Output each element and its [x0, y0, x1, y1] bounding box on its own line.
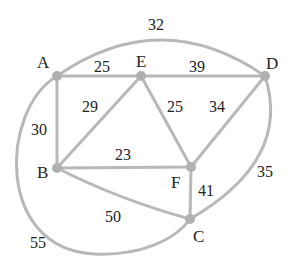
- node-f: [186, 162, 196, 172]
- weight-a-e: 25: [94, 58, 110, 75]
- weight-e-f: 25: [167, 98, 183, 115]
- edge-d-f: [191, 76, 265, 167]
- weight-d-c: 35: [257, 163, 273, 180]
- node-label-b: B: [37, 163, 48, 182]
- weight-e-d: 39: [189, 58, 205, 75]
- weight-b-e: 29: [82, 98, 98, 115]
- node-c: [185, 214, 195, 224]
- weight-a-d: 32: [148, 16, 164, 33]
- weight-b-c: 50: [105, 208, 121, 225]
- weighted-graph: A E D B F C 32 25 39 30 29 25 34 23 41 3…: [0, 0, 295, 264]
- node-b: [52, 163, 62, 173]
- edge-a-d-curved: [57, 40, 265, 76]
- edge-f-c: [190, 167, 191, 219]
- node-label-a: A: [37, 53, 50, 72]
- weight-a-b: 30: [31, 121, 47, 138]
- node-label-e: E: [136, 52, 146, 71]
- edge-b-f: [57, 167, 191, 168]
- weight-a-c: 55: [30, 234, 46, 251]
- weight-d-f: 34: [209, 98, 225, 115]
- node-e: [136, 71, 146, 81]
- edge-e-f: [141, 76, 191, 167]
- weight-b-f: 23: [115, 146, 131, 163]
- node-label-c: C: [193, 227, 204, 246]
- node-label-f: F: [171, 173, 180, 192]
- weight-f-c: 41: [198, 182, 214, 199]
- node-a: [52, 71, 62, 81]
- node-label-d: D: [266, 54, 278, 73]
